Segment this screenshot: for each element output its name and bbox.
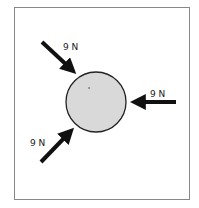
force-label-bottom-left: 9 N [30,138,45,148]
center-dot [88,87,90,89]
force-label-top-left: 9 N [63,42,78,52]
force-diagram: 9 N 9 N 9 N [0,0,199,208]
force-label-right: 9 N [150,89,165,99]
object-body [66,72,126,132]
